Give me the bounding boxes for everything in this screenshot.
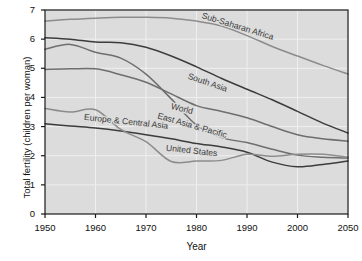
x-tick-label: 1960	[76, 222, 116, 233]
x-tick-label: 2000	[278, 222, 318, 233]
y-tick-label: 6	[21, 33, 35, 43]
x-tick-label: 1950	[25, 222, 65, 233]
y-tick-label: 4	[21, 91, 35, 101]
fertility-chart-figure: Total fertility (children per woman) Yea…	[0, 0, 362, 261]
y-tick-label: 3	[21, 121, 35, 131]
x-tick-label: 1970	[126, 222, 166, 233]
x-tick-label: 2050	[328, 222, 362, 233]
x-tick-label: 1990	[227, 222, 267, 233]
x-tick-label: 1980	[177, 222, 217, 233]
y-tick-label: 0	[21, 208, 35, 218]
y-tick-label: 2	[21, 150, 35, 160]
y-tick-label: 5	[21, 62, 35, 72]
y-tick-label: 1	[21, 179, 35, 189]
y-tick-label: 7	[21, 4, 35, 14]
